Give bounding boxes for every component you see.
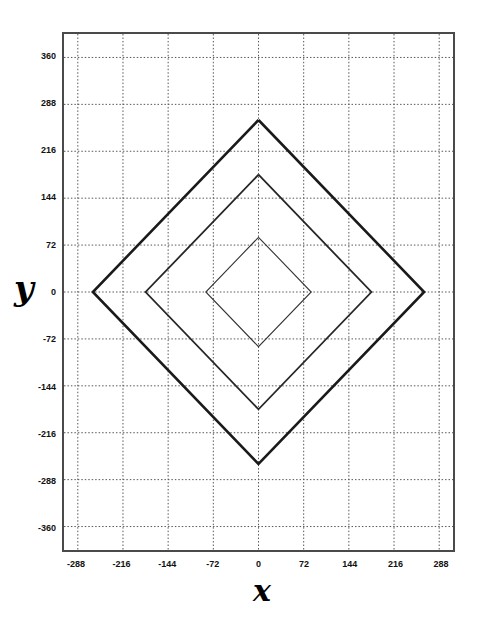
series-middle-diamond [146, 175, 372, 410]
y-tick-label--360: -360 [20, 523, 56, 533]
x-tick-label-0: 0 [256, 559, 261, 569]
x-axis-title: x [0, 576, 482, 606]
x-tick-label-144: 144 [342, 559, 357, 569]
y-axis-title: y [14, 271, 34, 305]
y-tick-label-144: 144 [20, 192, 56, 202]
y-tick-label--72: -72 [20, 334, 56, 344]
series-inner-diamond [206, 237, 311, 346]
series-outer-diamond [93, 120, 424, 464]
y-tick-label-72: 72 [20, 240, 56, 250]
y-tick-label-216: 216 [20, 145, 56, 155]
chart-figure: 360288216144720-72-144-216-288-360 -288-… [0, 0, 482, 624]
x-tick-label--216: -216 [113, 559, 131, 569]
x-tick-label-72: 72 [299, 559, 309, 569]
series-layer [64, 34, 453, 550]
y-tick-label--216: -216 [20, 429, 56, 439]
x-tick-label-216: 216 [388, 559, 403, 569]
x-tick-label-288: 288 [434, 559, 449, 569]
y-tick-label--144: -144 [20, 382, 56, 392]
y-tick-label-360: 360 [20, 51, 56, 61]
x-tick-label--144: -144 [158, 559, 176, 569]
plot-area [62, 32, 455, 552]
y-tick-label-288: 288 [20, 98, 56, 108]
diamond-contours [93, 120, 424, 464]
y-tick-label--288: -288 [20, 476, 56, 486]
x-tick-label--72: -72 [206, 559, 219, 569]
x-tick-label--288: -288 [67, 559, 85, 569]
